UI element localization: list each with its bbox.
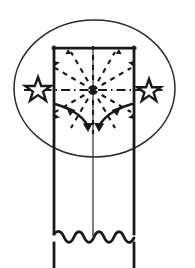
figure-container xyxy=(0,0,195,268)
technical-line-diagram xyxy=(0,0,195,268)
radiation-origin-point xyxy=(90,87,95,92)
canvas-background xyxy=(0,0,195,268)
